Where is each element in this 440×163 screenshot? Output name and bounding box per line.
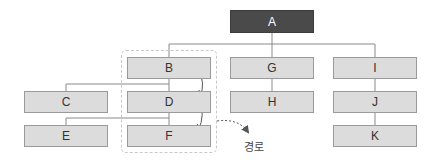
node-label: B (165, 61, 173, 75)
node-label: C (62, 95, 71, 109)
node-label: D (165, 95, 174, 109)
node-label: G (267, 61, 276, 75)
node-label: E (62, 129, 70, 143)
node-h[interactable]: H (230, 91, 314, 113)
node-label: F (165, 129, 172, 143)
node-j[interactable]: J (333, 91, 417, 113)
node-label: I (373, 61, 376, 75)
node-g[interactable]: G (230, 57, 314, 79)
node-label: K (371, 129, 379, 143)
node-b[interactable]: B (127, 57, 211, 79)
node-f[interactable]: F (127, 125, 211, 147)
node-e[interactable]: E (24, 125, 108, 147)
node-i[interactable]: I (333, 57, 417, 79)
node-d[interactable]: D (127, 91, 211, 113)
node-k[interactable]: K (333, 125, 417, 147)
node-a[interactable]: A (230, 10, 314, 33)
node-c[interactable]: C (24, 91, 108, 113)
node-label: J (372, 95, 378, 109)
tree-diagram: A B G I C D H J E F K 경로 (0, 0, 440, 163)
node-label: A (268, 15, 276, 29)
path-label: 경로 (244, 138, 264, 154)
node-label: H (268, 95, 277, 109)
